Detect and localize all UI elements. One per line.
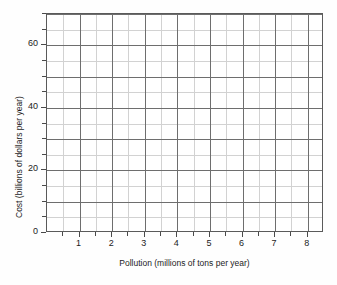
y-axis-tick bbox=[42, 13, 46, 14]
x-axis-tick bbox=[79, 232, 80, 237]
y-axis-tick bbox=[42, 154, 46, 155]
x-axis-tick bbox=[225, 232, 226, 236]
gridline-vertical bbox=[96, 14, 97, 231]
x-axis-tick bbox=[111, 232, 112, 237]
y-axis-tick bbox=[41, 44, 46, 45]
gridline-horizontal bbox=[47, 77, 322, 78]
gridline-horizontal bbox=[47, 45, 322, 46]
gridline-vertical bbox=[259, 14, 260, 231]
gridline-horizontal bbox=[47, 170, 322, 171]
x-axis-title: Pollution (millions of tons per year) bbox=[46, 258, 323, 268]
x-axis-tick bbox=[62, 232, 63, 236]
x-axis-tick-label: 4 bbox=[166, 238, 186, 248]
x-axis-tick bbox=[193, 232, 194, 236]
gridline-horizontal bbox=[47, 139, 322, 140]
x-axis-tick bbox=[209, 232, 210, 237]
gridline-horizontal bbox=[47, 108, 322, 109]
gridline-horizontal bbox=[47, 14, 322, 15]
x-axis-tick-label: 5 bbox=[199, 238, 219, 248]
gridline-horizontal bbox=[47, 217, 322, 218]
gridline-vertical bbox=[128, 14, 129, 231]
y-axis-tick bbox=[42, 123, 46, 124]
y-axis-tick bbox=[42, 76, 46, 77]
x-axis-tick bbox=[127, 232, 128, 236]
x-axis-tick bbox=[160, 232, 161, 236]
gridline-vertical bbox=[80, 14, 81, 231]
gridline-horizontal bbox=[47, 30, 322, 31]
gridlines bbox=[47, 14, 322, 231]
x-axis-tick-label: 1 bbox=[69, 238, 89, 248]
gridline-vertical bbox=[63, 14, 64, 231]
x-axis-tick bbox=[144, 232, 145, 237]
gridline-vertical bbox=[112, 14, 113, 231]
x-axis-tick bbox=[258, 232, 259, 236]
gridline-vertical bbox=[275, 14, 276, 231]
gridline-vertical bbox=[226, 14, 227, 231]
y-axis-tick bbox=[41, 107, 46, 108]
x-axis-tick-label: 8 bbox=[297, 238, 317, 248]
y-axis-tick-label: 60 bbox=[16, 38, 38, 48]
gridline-vertical bbox=[291, 14, 292, 231]
x-axis-tick bbox=[242, 232, 243, 237]
plot-area bbox=[46, 13, 323, 232]
gridline-vertical bbox=[243, 14, 244, 231]
x-axis-tick bbox=[290, 232, 291, 236]
gridline-vertical bbox=[194, 14, 195, 231]
x-axis-tick-label: 2 bbox=[101, 238, 121, 248]
gridline-horizontal bbox=[47, 124, 322, 125]
gridline-horizontal bbox=[47, 155, 322, 156]
gridline-vertical bbox=[161, 14, 162, 231]
gridline-horizontal bbox=[47, 61, 322, 62]
x-axis-tick-label: 3 bbox=[134, 238, 154, 248]
y-axis-tick-label: 0 bbox=[16, 226, 38, 236]
y-axis-tick bbox=[42, 91, 46, 92]
gridline-vertical bbox=[210, 14, 211, 231]
x-axis-tick-label: 6 bbox=[232, 238, 252, 248]
x-axis-tick bbox=[95, 232, 96, 236]
gridline-vertical bbox=[308, 14, 309, 231]
y-axis-tick bbox=[41, 169, 46, 170]
y-axis-tick bbox=[42, 201, 46, 202]
y-axis-tick bbox=[42, 60, 46, 61]
y-axis-tick bbox=[42, 138, 46, 139]
x-axis-tick bbox=[307, 232, 308, 237]
gridline-horizontal bbox=[47, 202, 322, 203]
gridline-vertical bbox=[145, 14, 146, 231]
gridline-vertical bbox=[177, 14, 178, 231]
gridline-horizontal bbox=[47, 186, 322, 187]
y-axis-title: Cost (billions of dollars per year) bbox=[14, 96, 24, 218]
x-axis-tick bbox=[274, 232, 275, 237]
gridline-horizontal bbox=[47, 92, 322, 93]
y-axis-tick bbox=[41, 232, 46, 233]
y-axis-tick bbox=[42, 216, 46, 217]
x-axis-tick bbox=[176, 232, 177, 237]
y-axis-tick bbox=[42, 29, 46, 30]
chart-figure: 12345678 0204060 Pollution (millions of … bbox=[0, 0, 337, 285]
y-axis-tick bbox=[42, 185, 46, 186]
x-axis-tick-label: 7 bbox=[264, 238, 284, 248]
